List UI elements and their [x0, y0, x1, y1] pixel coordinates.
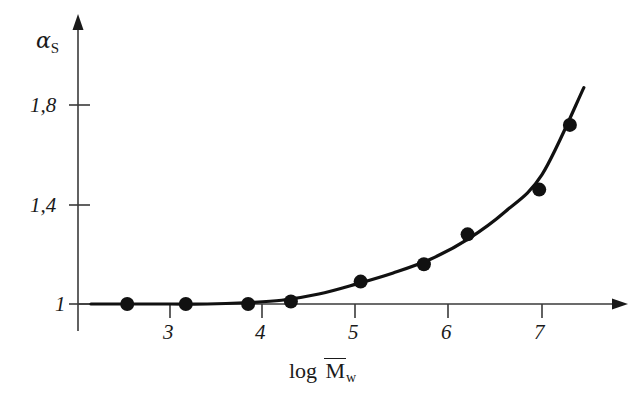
x-axis-label-prefix: log [289, 358, 317, 383]
x-axis-arrowhead [612, 299, 628, 310]
y-tick-label-1.4: 1,4 [30, 195, 56, 216]
data-point [354, 275, 368, 289]
x-tick-label-4: 4 [255, 322, 266, 343]
data-point [241, 297, 255, 311]
y-axis-arrowhead [73, 14, 84, 30]
data-point [120, 297, 134, 311]
data-point [179, 297, 193, 311]
data-point [461, 227, 475, 241]
y-axis-label-symbol: α [36, 28, 51, 53]
data-point [417, 257, 431, 271]
data-point [563, 118, 577, 132]
x-tick-label-6: 6 [441, 322, 452, 343]
x-axis-label-symbol: M [324, 358, 346, 382]
x-tick-label-5: 5 [348, 322, 359, 343]
fitted-curve [91, 88, 584, 305]
data-point-group [120, 118, 577, 311]
x-axis-label-subscript: w [346, 370, 356, 385]
chart-figure: αS log Mw 1,8 1,4 1 3 4 5 6 7 [0, 0, 642, 407]
x-tick-label-3: 3 [163, 322, 174, 343]
data-point [284, 295, 298, 309]
y-axis-label-subscript: S [51, 40, 59, 56]
plot-canvas [0, 0, 642, 407]
y-tick-label-1.8: 1,8 [30, 95, 56, 116]
y-axis-label: αS [36, 30, 59, 56]
x-tick-label-7: 7 [534, 322, 545, 343]
y-tick-label-1: 1 [55, 294, 66, 315]
x-axis-label: log Mw [289, 358, 356, 385]
data-point [532, 183, 546, 197]
